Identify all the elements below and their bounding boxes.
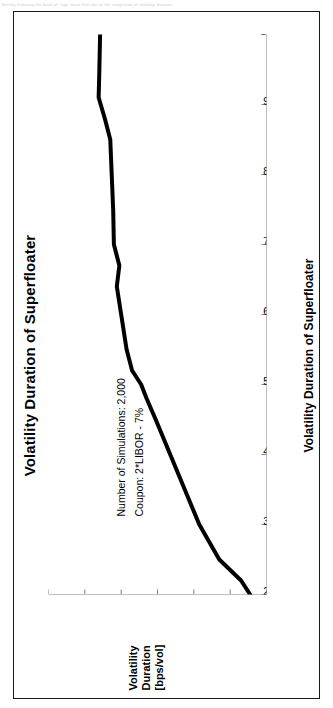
x-axis-tick-label: 6.5: [263, 304, 266, 316]
y-axis-title: Volatility Duration [bps/vol]: [126, 604, 165, 690]
x-axis-tick-label: 7.5: [263, 234, 266, 246]
y-axis-tick-label: -4: [261, 593, 266, 594]
x-axis-tick-label: 3.5: [263, 514, 266, 526]
y-axis-title-line-2: Duration: [139, 604, 152, 690]
y-axis-title-line-1: Volatility: [126, 604, 139, 690]
page-top-caption: Survey featuring the bank of ~age since …: [0, 0, 333, 9]
plot-svg: 2.53.54.55.56.57.58.59.510.5210-1-2-3-4: [48, 34, 266, 594]
chart-title: Volatility Duration of Superfloater: [20, 12, 37, 698]
series-line-volatility-duration: [98, 34, 250, 594]
y-axis-tick-label: -2: [189, 593, 198, 594]
x-axis-tick-label: 9.5: [263, 94, 266, 106]
y-axis-tick-label: -3: [225, 593, 234, 594]
y-axis-tick-label: 1: [81, 593, 87, 594]
x-axis-tick-label: 8.5: [263, 164, 266, 176]
x-axis-tick-label: 10.5: [260, 34, 266, 36]
rotated-chart-canvas: Volatility Duration of Superfloater Vola…: [14, 12, 319, 698]
x-axis-title: Volatility Duration of Superfloater: [301, 12, 315, 698]
x-axis-tick-label: 4.5: [263, 444, 266, 456]
figure-frame: Volatility Duration of Superfloater Vola…: [13, 11, 320, 699]
y-axis-tick-label: 0: [118, 593, 124, 594]
y-axis-title-line-3: [bps/vol]: [152, 604, 165, 690]
x-axis-tick-label: 5.5: [263, 374, 266, 386]
plot-area: 2.53.54.55.56.57.58.59.510.5210-1-2-3-4: [48, 34, 266, 594]
y-axis-tick-label: 2: [48, 593, 51, 594]
y-axis-tick-label: -1: [152, 593, 161, 594]
